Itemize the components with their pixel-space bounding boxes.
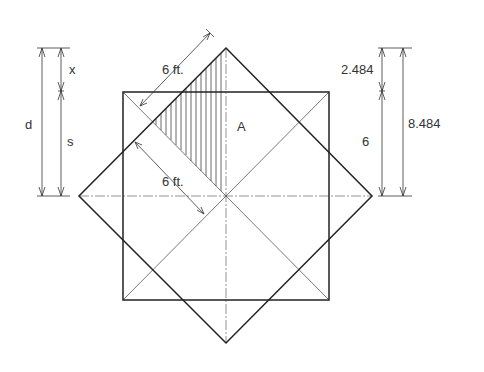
label-6ft-top: 6 ft. [162,62,184,77]
dim-right [378,48,412,196]
diagram-canvas: 6 ft. 6 ft. A d x s 2.484 6 8.484 [0,0,484,372]
dim-left [37,48,70,196]
label-6ft-mid: 6 ft. [162,174,184,189]
label-s: s [67,134,74,149]
label-x: x [69,62,76,77]
label-2484: 2.484 [341,62,374,77]
label-area-a: A [237,119,246,134]
label-d: d [25,117,32,132]
label-8484: 8.484 [408,116,441,131]
label-6: 6 [362,134,369,149]
